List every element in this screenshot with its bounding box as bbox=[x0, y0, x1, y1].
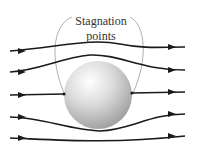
arrow-icon bbox=[168, 44, 176, 50]
arrow-icon bbox=[168, 111, 176, 117]
stagnation-point-rear bbox=[130, 91, 133, 94]
arrow-icon bbox=[18, 114, 26, 120]
arrow-icon bbox=[168, 89, 176, 95]
label-line-2: points bbox=[66, 29, 136, 44]
arrow-icon bbox=[18, 92, 26, 98]
streamline-5 bbox=[10, 136, 185, 141]
arrow-icon bbox=[168, 67, 176, 73]
arrow-icon bbox=[18, 135, 26, 141]
stagnation-points-label: Stagnation points bbox=[66, 14, 136, 44]
streamline-3-downstream bbox=[132, 92, 185, 93]
arrow-icon bbox=[168, 133, 176, 139]
sphere bbox=[64, 61, 132, 129]
stagnation-point-front bbox=[62, 92, 65, 95]
label-line-1: Stagnation bbox=[66, 14, 136, 29]
